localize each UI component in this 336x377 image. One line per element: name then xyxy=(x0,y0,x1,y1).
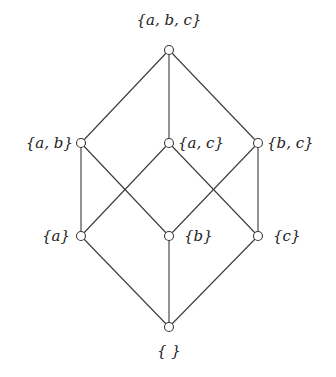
labels-layer: {a, b, c}{a, b}{a, c}{b, c}{a}{b}{c}{ } xyxy=(26,11,314,360)
node-ab xyxy=(77,139,86,148)
edge-a-empty xyxy=(81,236,169,327)
hasse-diagram: {a, b, c}{a, b}{a, c}{b, c}{a}{b}{c}{ } xyxy=(0,0,336,377)
node-c xyxy=(254,232,263,241)
node-bc xyxy=(254,139,263,148)
node-label-empty: { } xyxy=(157,342,181,360)
node-empty xyxy=(165,323,174,332)
edge-c-empty xyxy=(169,236,258,327)
node-b xyxy=(165,232,174,241)
node-label-c: {c} xyxy=(273,227,301,245)
node-abc xyxy=(165,46,174,55)
node-label-abc: {a, b, c} xyxy=(136,11,201,29)
edge-abc-bc xyxy=(169,50,258,143)
edges-layer xyxy=(81,50,258,327)
node-label-ac: {a, c} xyxy=(178,134,224,152)
node-a xyxy=(77,232,86,241)
node-label-ab: {a, b} xyxy=(26,134,73,152)
edge-abc-ab xyxy=(81,50,169,143)
node-ac xyxy=(165,139,174,148)
node-label-bc: {b, c} xyxy=(267,134,314,152)
node-label-a: {a} xyxy=(42,227,70,245)
node-label-b: {b} xyxy=(184,227,213,245)
